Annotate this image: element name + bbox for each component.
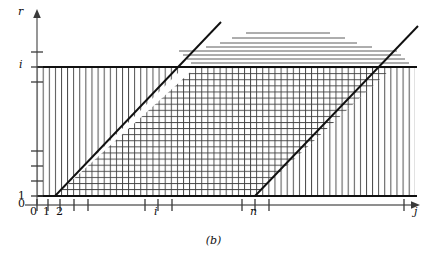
x-tick-label-n: n bbox=[250, 206, 257, 217]
y-axis-label: r bbox=[18, 6, 23, 17]
y-tick-label-i: i bbox=[19, 59, 23, 70]
x-axis-label: j bbox=[414, 206, 417, 217]
x-tick-label-i: i bbox=[154, 206, 158, 217]
horizontal-hatch-top-region bbox=[179, 33, 409, 63]
x-tick-label-2: 2 bbox=[56, 206, 63, 217]
figure-container: r i 1 0 0 1 2 i n j (b) bbox=[0, 0, 427, 265]
x-tick-label-1: 1 bbox=[43, 206, 50, 217]
y-axis-arrow-icon bbox=[33, 9, 41, 18]
x-tick-label-0: 0 bbox=[30, 206, 37, 217]
figure-canvas bbox=[0, 0, 427, 265]
y-tick-label-0: 0 bbox=[18, 198, 25, 209]
figure-caption: (b) bbox=[0, 234, 427, 247]
